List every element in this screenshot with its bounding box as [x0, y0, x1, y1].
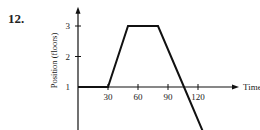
y-tick-label: 3	[66, 21, 71, 31]
x-tick-label: 30	[104, 92, 114, 102]
x-axis-arrow-icon	[232, 85, 239, 90]
y-axis-arrow-icon	[76, 7, 81, 14]
y-tick-label: 1	[66, 82, 71, 92]
y-axis-title: Position (floors)	[49, 33, 59, 89]
x-tick-label: 120	[191, 92, 205, 102]
position-series-line	[78, 26, 206, 130]
position-time-chart: 306090120B123Time (s)Position (floors)	[0, 0, 260, 130]
y-tick-label: 2	[66, 52, 71, 62]
x-tick-label: 90	[164, 92, 174, 102]
x-axis-title: Time (s)	[243, 82, 260, 92]
axis-labels: 306090120B123Time (s)Position (floors)	[49, 21, 260, 130]
x-tick-label: 60	[134, 92, 144, 102]
